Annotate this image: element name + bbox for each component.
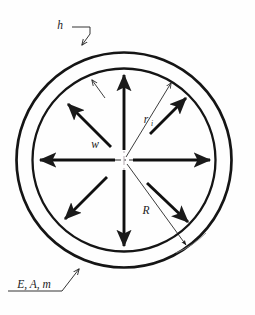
- thickness-label: h: [57, 19, 63, 31]
- mean-radius-label: R: [141, 204, 149, 216]
- inner-radius-label-subscript: i: [151, 119, 153, 128]
- material-props-label: E, A, m: [16, 278, 51, 291]
- figure-container: h w r i R E, A, m: [0, 0, 255, 315]
- displacement-label: w: [91, 138, 99, 150]
- inner-radius-label-base: r: [144, 113, 149, 125]
- ring-diagram: h w r i R E, A, m: [0, 0, 255, 315]
